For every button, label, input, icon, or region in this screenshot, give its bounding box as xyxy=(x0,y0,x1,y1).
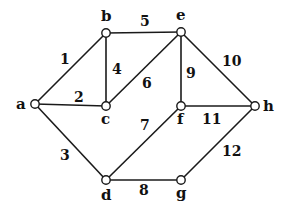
node-label-g: g xyxy=(176,184,187,202)
edge-a-c xyxy=(35,104,106,106)
node-label-h: h xyxy=(263,97,274,115)
edge-weight-label: 8 xyxy=(139,182,149,198)
edge-weight-label: 5 xyxy=(140,13,150,29)
node-b xyxy=(102,29,110,37)
edge-weight-label: 2 xyxy=(74,89,84,105)
edge-b-e xyxy=(106,32,181,33)
weighted-graph-diagram: 123456789101112 abecfhdg xyxy=(0,0,290,218)
node-label-c: c xyxy=(101,110,110,128)
node-label-d: d xyxy=(101,186,112,204)
node-e xyxy=(177,28,185,36)
node-label-b: b xyxy=(101,7,112,25)
edge-weight-label: 1 xyxy=(60,51,70,67)
edge-a-d xyxy=(35,104,106,180)
edge-weight-label: 4 xyxy=(112,61,122,77)
edge-weight-label: 10 xyxy=(222,53,242,69)
edge-weight-label: 6 xyxy=(142,75,152,91)
edge-weight-label: 3 xyxy=(60,147,70,163)
edge-weight-label: 9 xyxy=(186,65,196,81)
node-label-a: a xyxy=(16,95,26,113)
edge-weight-label: 11 xyxy=(202,111,221,127)
node-h xyxy=(251,102,259,110)
edge-weight-label: 12 xyxy=(222,143,241,159)
node-c xyxy=(102,102,110,110)
node-f xyxy=(177,102,185,110)
edge-a-b xyxy=(35,33,106,104)
node-label-e: e xyxy=(176,6,186,24)
node-g xyxy=(177,176,185,184)
node-label-f: f xyxy=(177,110,185,128)
node-d xyxy=(102,176,110,184)
edge-weight-label: 7 xyxy=(140,117,150,133)
node-a xyxy=(31,100,39,108)
